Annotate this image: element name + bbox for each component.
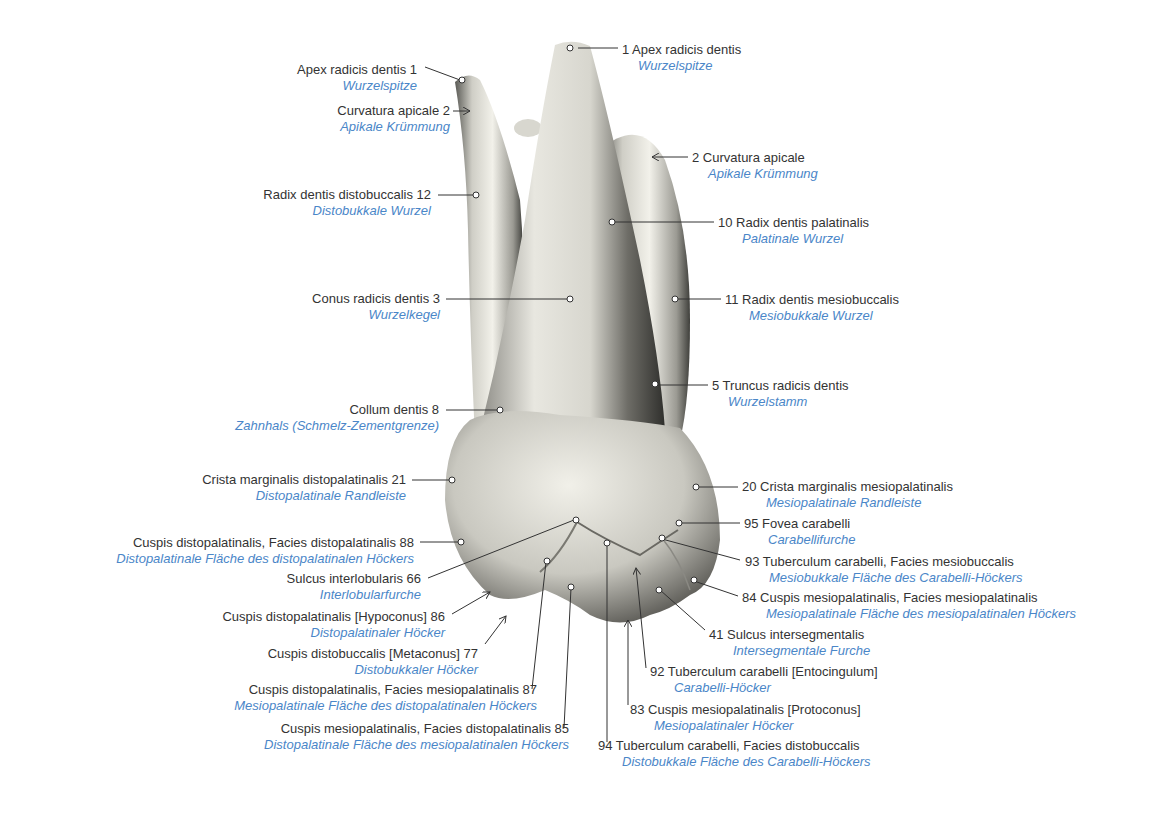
label-3: Conus radicis dentis 3Wurzelkegel bbox=[312, 291, 440, 323]
label-66: Sulcus interlobularis 66Interlobularfurc… bbox=[287, 571, 421, 603]
latin-term: Apex radicis dentis 1 bbox=[297, 62, 417, 78]
german-term: Mesiobukkale Wurzel bbox=[725, 308, 899, 324]
label-5: 5 Truncus radicis dentisWurzelstamm bbox=[712, 378, 849, 410]
label-94: 94 Tuberculum carabelli, Facies distobuc… bbox=[598, 738, 871, 770]
latin-term: Curvatura apicale 2 bbox=[337, 103, 450, 119]
latin-term: 95 Fovea carabelli bbox=[744, 516, 855, 532]
german-term: Apikale Krümmung bbox=[692, 166, 818, 182]
label-21: Crista marginalis distopalatinalis 21Dis… bbox=[202, 472, 406, 504]
german-term: Distopalatinale Randleiste bbox=[202, 488, 406, 504]
label-20: 20 Crista marginalis mesiopalatinalisMes… bbox=[742, 479, 953, 511]
german-term: Distobukkaler Höcker bbox=[268, 662, 478, 678]
crown bbox=[445, 411, 720, 623]
label-11: 11 Radix dentis mesiobuccalisMesiobukkal… bbox=[725, 292, 899, 324]
german-term: Distopalatinale Fläche des mesiopalatina… bbox=[264, 737, 569, 753]
german-term: Mesiobukkale Fläche des Carabelli-Höcker… bbox=[745, 570, 1023, 586]
german-term: Intersegmentale Furche bbox=[709, 643, 870, 659]
latin-term: Conus radicis dentis 3 bbox=[312, 291, 440, 307]
label-87: Cuspis distopalatinalis, Facies mesiopal… bbox=[234, 682, 537, 714]
latin-term: Cuspis distobuccalis [Metaconus] 77 bbox=[268, 646, 478, 662]
latin-term: Radix dentis distobuccalis 12 bbox=[263, 187, 431, 203]
german-term: Mesiopalatinale Fläche des distopalatina… bbox=[234, 698, 537, 714]
label-83: 83 Cuspis mesiopalatinalis [Protoconus]M… bbox=[630, 702, 861, 734]
label-2: 2 Curvatura apicaleApikale Krümmung bbox=[692, 150, 818, 182]
german-term: Distobukkale Fläche des Carabelli-Höcker… bbox=[598, 754, 871, 770]
latin-term: Cuspis distopalatinalis, Facies distopal… bbox=[116, 535, 414, 551]
latin-term: Cuspis distopalatinalis [Hypoconus] 86 bbox=[222, 609, 445, 625]
german-term: Wurzelstamm bbox=[712, 394, 849, 410]
latin-term: 84 Cuspis mesiopalatinalis, Facies mesio… bbox=[742, 590, 1076, 606]
latin-term: 5 Truncus radicis dentis bbox=[712, 378, 849, 394]
german-term: Palatinale Wurzel bbox=[718, 231, 869, 247]
german-term: Wurzelkegel bbox=[312, 307, 440, 323]
label-10: 10 Radix dentis palatinalisPalatinale Wu… bbox=[718, 215, 869, 247]
label-92: 92 Tuberculum carabelli [Entocingulum]Ca… bbox=[650, 664, 878, 696]
label-8: Collum dentis 8Zahnhals (Schmelz-Zementg… bbox=[235, 402, 439, 434]
latin-term: 93 Tuberculum carabelli, Facies mesiobuc… bbox=[745, 554, 1023, 570]
latin-term: 94 Tuberculum carabelli, Facies distobuc… bbox=[598, 738, 871, 754]
latin-term: 2 Curvatura apicale bbox=[692, 150, 818, 166]
latin-term: 10 Radix dentis palatinalis bbox=[718, 215, 869, 231]
german-term: Carabellifurche bbox=[744, 532, 855, 548]
german-term: Wurzelspitze bbox=[622, 58, 741, 74]
german-term: Carabelli-Höcker bbox=[650, 680, 878, 696]
german-term: Zahnhals (Schmelz-Zementgrenze) bbox=[235, 418, 439, 434]
label-88: Cuspis distopalatinalis, Facies distopal… bbox=[116, 535, 414, 567]
german-term: Mesiopalatinale Randleiste bbox=[742, 495, 953, 511]
latin-term: 11 Radix dentis mesiobuccalis bbox=[725, 292, 899, 308]
german-term: Interlobularfurche bbox=[287, 587, 421, 603]
label-95: 95 Fovea carabelliCarabellifurche bbox=[744, 516, 855, 548]
label-93: 93 Tuberculum carabelli, Facies mesiobuc… bbox=[745, 554, 1023, 586]
german-term: Mesiopalatinale Fläche des mesiopalatina… bbox=[742, 606, 1076, 622]
german-term: Apikale Krümmung bbox=[337, 119, 450, 135]
latin-term: Sulcus interlobularis 66 bbox=[287, 571, 421, 587]
tooth-illustration bbox=[0, 0, 1165, 821]
german-term: Distopalatinale Fläche des distopalatina… bbox=[116, 551, 414, 567]
label-85: Cuspis mesiopalatinalis, Facies distopal… bbox=[264, 721, 569, 753]
latin-term: Cuspis distopalatinalis, Facies mesiopal… bbox=[234, 682, 537, 698]
latin-term: Cuspis mesiopalatinalis, Facies distopal… bbox=[264, 721, 569, 737]
latin-term: Collum dentis 8 bbox=[235, 402, 439, 418]
label-84: 84 Cuspis mesiopalatinalis, Facies mesio… bbox=[742, 590, 1076, 622]
german-term: Mesiopalatinaler Höcker bbox=[630, 718, 861, 734]
label-1: Apex radicis dentis 1Wurzelspitze bbox=[297, 62, 417, 94]
label-2: Curvatura apicale 2Apikale Krümmung bbox=[337, 103, 450, 135]
label-41: 41 Sulcus intersegmentalisIntersegmental… bbox=[709, 627, 870, 659]
label-1: 1 Apex radicis dentisWurzelspitze bbox=[622, 42, 741, 74]
german-term: Wurzelspitze bbox=[297, 78, 417, 94]
latin-term: 41 Sulcus intersegmentalis bbox=[709, 627, 870, 643]
label-86: Cuspis distopalatinalis [Hypoconus] 86Di… bbox=[222, 609, 445, 641]
latin-term: 83 Cuspis mesiopalatinalis [Protoconus] bbox=[630, 702, 861, 718]
german-term: Distobukkale Wurzel bbox=[263, 203, 431, 219]
latin-term: 92 Tuberculum carabelli [Entocingulum] bbox=[650, 664, 878, 680]
label-77: Cuspis distobuccalis [Metaconus] 77Disto… bbox=[268, 646, 478, 678]
latin-term: 1 Apex radicis dentis bbox=[622, 42, 741, 58]
label-12: Radix dentis distobuccalis 12Distobukkal… bbox=[263, 187, 431, 219]
german-term: Distopalatinaler Höcker bbox=[222, 625, 445, 641]
latin-term: 20 Crista marginalis mesiopalatinalis bbox=[742, 479, 953, 495]
latin-term: Crista marginalis distopalatinalis 21 bbox=[202, 472, 406, 488]
